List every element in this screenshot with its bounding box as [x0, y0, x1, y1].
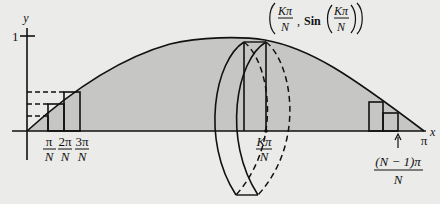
svg-text:N: N — [280, 20, 290, 34]
y-tick-label: 1 — [12, 29, 19, 44]
svg-text:Kπ: Kπ — [277, 4, 293, 18]
svg-text:Sin: Sin — [304, 14, 321, 28]
disk-method-diagram: y 1 x π π N 2π N 3π N Kπ N (N − 1)π N Kπ… — [0, 0, 440, 204]
pi-label: π — [421, 133, 428, 148]
svg-text:N: N — [77, 149, 88, 164]
point-label: Kπ N , Sin Kπ N — [270, 3, 363, 34]
tick-label-2: 2π N — [58, 134, 72, 164]
y-axis-label: y — [22, 11, 29, 25]
x-axis-label: x — [429, 125, 436, 139]
svg-text:Kπ: Kπ — [333, 4, 349, 18]
svg-text:N: N — [336, 20, 346, 34]
svg-text:Kπ: Kπ — [255, 134, 272, 149]
svg-text:π: π — [46, 134, 53, 149]
svg-text:(N − 1)π: (N − 1)π — [375, 154, 421, 169]
svg-text:,: , — [297, 14, 300, 28]
svg-text:N: N — [259, 149, 270, 164]
tick-label-1: π N — [43, 134, 56, 164]
svg-text:2π: 2π — [58, 134, 72, 149]
svg-text:N: N — [393, 172, 404, 187]
svg-text:N: N — [60, 149, 71, 164]
svg-text:N: N — [44, 149, 55, 164]
svg-text:3π: 3π — [75, 134, 89, 149]
tick-label-3: 3π N — [75, 134, 89, 164]
last-tick-label: (N − 1)π N — [374, 154, 423, 187]
